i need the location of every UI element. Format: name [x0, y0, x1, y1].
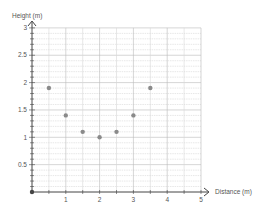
- y-tick-label: 2.5: [18, 51, 27, 58]
- x-tick-label: 1: [64, 196, 68, 203]
- y-tick-label: 3: [23, 24, 27, 31]
- data-point: [148, 86, 152, 90]
- x-tick-label: 2: [98, 196, 102, 203]
- data-point: [114, 130, 118, 134]
- scatter-chart: 123450.511.522.53 Height (m) Distance (m…: [0, 0, 262, 211]
- y-tick-label: 2: [23, 79, 27, 86]
- data-points: [30, 86, 153, 194]
- data-point: [131, 113, 135, 117]
- x-tick-label: 3: [132, 196, 136, 203]
- x-axis-title: Distance (m): [215, 188, 252, 196]
- y-axis-title: Height (m): [12, 12, 42, 20]
- x-tick-label: 5: [199, 196, 203, 203]
- origin-point: [30, 190, 34, 194]
- data-point: [97, 135, 101, 139]
- ticks: [29, 28, 201, 194]
- grid: [32, 28, 201, 192]
- data-point: [81, 130, 85, 134]
- x-tick-label: 4: [165, 196, 169, 203]
- y-tick-label: 0.5: [18, 161, 27, 168]
- tick-labels: 123450.511.522.53: [18, 24, 203, 203]
- data-point: [47, 86, 51, 90]
- y-tick-label: 1: [23, 134, 27, 141]
- axes: [28, 21, 209, 196]
- y-tick-label: 1.5: [18, 106, 27, 113]
- data-point: [64, 113, 68, 117]
